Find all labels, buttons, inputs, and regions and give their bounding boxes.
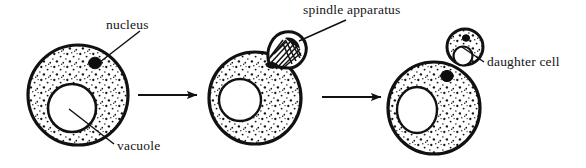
- label-spindle-apparatus: spindle apparatus: [303, 3, 401, 17]
- vacuole-stage3: [397, 87, 437, 133]
- stage-1-parent-cell: [28, 45, 128, 145]
- stage-3-daughter-cell: [388, 29, 483, 154]
- daughter-cell-nucleus: [462, 35, 469, 42]
- bud-stage2: [265, 32, 306, 69]
- daughter-cell-vacuole: [454, 47, 473, 66]
- leader-spindle: [299, 20, 346, 41]
- bud-daughter-cell: [447, 29, 483, 66]
- vacuole-stage2: [219, 79, 261, 121]
- stage-2-spindle-apparatus: [209, 32, 306, 144]
- label-nucleus: nucleus: [106, 18, 149, 32]
- cell-budding-diagram: nucleus vacuole spindle apparatus daught…: [0, 0, 586, 168]
- leader-nucleus: [100, 31, 140, 62]
- nucleus-stage1: [89, 57, 102, 69]
- nucleus-stage3: [441, 70, 453, 81]
- diagram-canvas: [0, 0, 586, 168]
- label-vacuole: vacuole: [117, 139, 160, 153]
- label-daughter-cell: daughter cell: [487, 55, 560, 69]
